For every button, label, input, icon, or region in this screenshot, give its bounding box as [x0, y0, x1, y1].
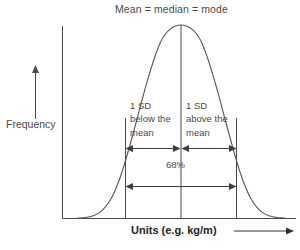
sd-above-double-arrow-icon: [182, 145, 237, 152]
coverage-percent-label: 68%: [166, 159, 185, 171]
sd-above-annotation-label: 1 SD above the mean: [186, 99, 228, 139]
x-axis-label: Units (e.g. kg/m): [131, 224, 217, 238]
sd-below-double-arrow-icon: [126, 145, 181, 152]
normal-distribution-figure: Mean = median = mode Frequency 1 SD belo…: [0, 0, 300, 250]
sd-below-annotation-label: 1 SD below the mean: [130, 99, 171, 139]
units-direction-arrow-icon: [234, 228, 294, 235]
chart-title: Mean = median = mode: [115, 3, 228, 16]
y-axis-label: Frequency: [6, 118, 56, 131]
frequency-direction-arrow-icon: [32, 65, 39, 119]
